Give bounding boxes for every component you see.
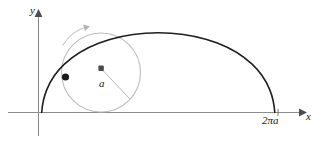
- circle-center-dot: [98, 66, 103, 71]
- x-axis-label: x: [306, 110, 311, 122]
- radius-label: a: [99, 77, 105, 89]
- cycloid-figure: y x a 2πa: [0, 0, 328, 142]
- y-axis-label: y: [30, 4, 35, 16]
- radius-segment: [101, 69, 130, 100]
- tracing-point: [62, 73, 69, 80]
- cycloid-curve: [42, 33, 275, 113]
- x-tick-label-2pia: 2πa: [262, 114, 279, 126]
- y-axis: [35, 9, 43, 136]
- y-axis-arrowhead: [35, 9, 43, 17]
- rolling-circle: [62, 33, 141, 112]
